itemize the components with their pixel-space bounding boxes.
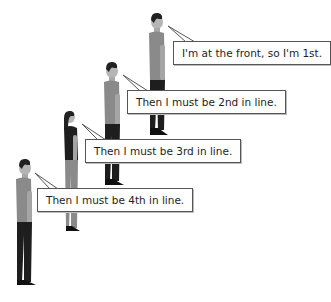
- speech-bubble-3: Then I must be 3rd in line.: [85, 139, 241, 163]
- speech-text-2: Then I must be 2nd in line.: [136, 96, 277, 108]
- speech-bubble-4: Then I must be 4th in line.: [37, 188, 193, 212]
- person-1-figure: [149, 13, 168, 135]
- speech-bubble-2: Then I must be 2nd in line.: [127, 90, 286, 114]
- speech-text-3: Then I must be 3rd in line.: [94, 145, 232, 157]
- speech-bubble-1: I'm at the front, so I'm 1st.: [173, 41, 331, 65]
- person-3-figure: [64, 111, 80, 231]
- person-4-figure: [16, 159, 36, 285]
- speech-text-4: Then I must be 4th in line.: [46, 194, 184, 206]
- speech-text-1: I'm at the front, so I'm 1st.: [182, 47, 322, 59]
- person-2-figure: [104, 62, 124, 185]
